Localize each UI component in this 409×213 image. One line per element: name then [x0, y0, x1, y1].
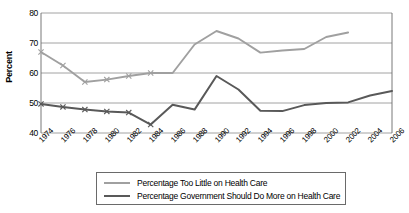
health-care-line-chart: Percent 4050607080 197419761978198019821… [0, 0, 409, 213]
legend-label-too-little: Percentage Too Little on Health Care [137, 178, 267, 188]
chart-legend: Percentage Too Little on Health Care Per… [96, 172, 346, 205]
legend-swatch-government-do-more [104, 195, 130, 197]
legend-item-government-do-more: Percentage Government Should Do More on … [104, 189, 340, 203]
legend-swatch-too-little [104, 182, 130, 184]
series-line-1 [41, 76, 392, 125]
legend-item-too-little: Percentage Too Little on Health Care [104, 176, 267, 190]
data-point-marker [60, 63, 65, 68]
legend-label-government-do-more: Percentage Government Should Do More on … [137, 191, 340, 201]
series-line-0 [41, 31, 348, 82]
